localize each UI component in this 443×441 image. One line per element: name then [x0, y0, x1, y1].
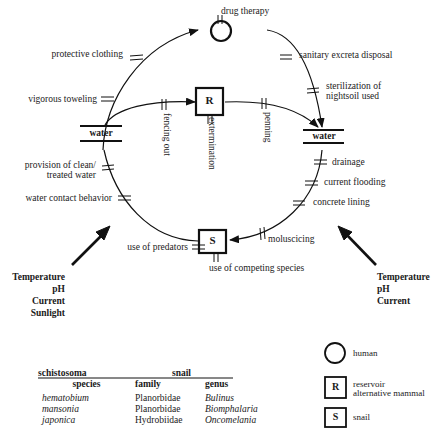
legend-reservoir-label-2: alternative mammal	[353, 389, 425, 399]
label-provision-line1: provision of clean/	[10, 160, 96, 170]
col-genus: genus	[205, 379, 258, 390]
label-provision-line2: treated water	[10, 170, 96, 180]
label-drainage: drainage	[332, 157, 365, 167]
legend-snail-symbol: S	[325, 411, 346, 422]
cell-genus: Biomphalaria	[205, 404, 258, 415]
environment-left: Temperature pH Current Sunlight	[5, 271, 65, 319]
label-current-flooding: current flooding	[324, 177, 385, 187]
legend-reservoir-symbol: R	[325, 381, 346, 392]
table-row: mansonia Planorbidae Biomphalaria	[38, 404, 258, 415]
env-left-sunlight: Sunlight	[5, 307, 65, 319]
legend-human-label: human	[353, 349, 378, 359]
snail-node-label: S	[199, 234, 226, 246]
human-node-icon	[211, 21, 231, 41]
edge-water-to-snail-right	[230, 150, 322, 240]
cell-genus: Oncomelania	[205, 415, 258, 426]
label-extermination: extermination	[207, 117, 217, 170]
label-sterilization-line2: nightsoil used	[326, 91, 379, 101]
table-row: japonica Hydrobiidae Oncomelania	[38, 415, 258, 426]
reservoir-node-label: R	[196, 94, 223, 106]
label-moluscicing: moluscicing	[268, 234, 314, 244]
water-left-label: water	[81, 128, 121, 138]
cell-species: japonica	[38, 415, 135, 426]
cell-genus: Bulinus	[205, 390, 258, 404]
label-protective-clothing: protective clothing	[47, 49, 123, 59]
environment-right: Temperature pH Current	[377, 271, 430, 307]
cell-species: hematobium	[38, 390, 135, 404]
edge-water-to-reservoir	[105, 102, 195, 125]
label-penning: penning	[263, 112, 273, 143]
env-right-current: Current	[377, 295, 430, 307]
env-right-temperature: Temperature	[377, 271, 430, 283]
cell-family: Planorbidae	[135, 390, 205, 404]
env-left-temperature: Temperature	[5, 271, 65, 283]
env-right-ph: pH	[377, 283, 430, 295]
table-row: hematobium Planorbidae Bulinus	[38, 390, 258, 404]
label-concrete-lining: concrete lining	[313, 197, 370, 207]
label-drug-therapy: drug therapy	[221, 6, 269, 16]
cell-family: Planorbidae	[135, 404, 205, 415]
col-species: species	[38, 379, 135, 390]
water-right-label: water	[304, 131, 344, 141]
cell-family: Hydrobiidae	[135, 415, 205, 426]
label-sanitary-excreta-disposal: sanitary excreta disposal	[299, 50, 392, 60]
col-family: family	[135, 379, 205, 390]
header-snail: snail	[135, 368, 258, 379]
legend-snail-label: snail	[353, 413, 370, 423]
label-sterilization-line1: sterilization of	[326, 81, 381, 91]
cell-species: mansonia	[38, 404, 135, 415]
env-left-ph: pH	[5, 283, 65, 295]
header-schistosoma: schistosoma	[38, 368, 135, 379]
env-left-current: Current	[5, 295, 65, 307]
label-use-of-competing-species: use of competing species	[209, 263, 304, 273]
label-water-contact-behavior: water contact behavior	[10, 193, 112, 203]
species-table: schistosoma snail species family genus h…	[38, 368, 258, 426]
label-vigorous-toweling: vigorous toweling	[24, 94, 97, 104]
legend-human-icon	[325, 343, 345, 363]
label-use-of-predators: use of predators	[105, 242, 188, 252]
label-fencing-out: fencing out	[162, 113, 172, 156]
